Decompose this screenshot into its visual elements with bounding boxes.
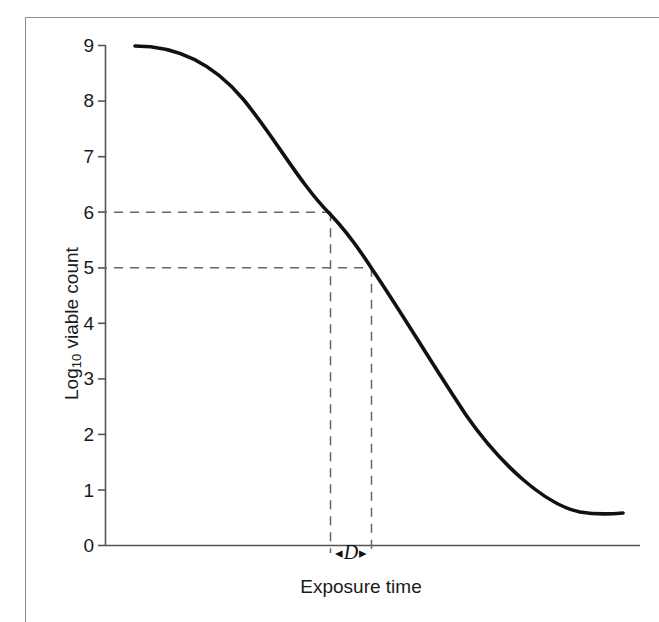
x-axis-title: Exposure time <box>105 576 617 598</box>
y-tick-label-2: 2 <box>70 425 94 444</box>
survival-curve-chart <box>0 0 659 622</box>
figure-container: 9 8 7 6 5 4 3 2 1 0 Log10 viable count ◂… <box>0 0 659 622</box>
y-tick-label-8: 8 <box>70 91 94 110</box>
y-axis-title-base: Log <box>61 368 82 400</box>
y-tick-label-9: 9 <box>70 36 94 55</box>
d-value-label: D <box>344 542 358 562</box>
y-axis-title-subscript: 10 <box>69 354 84 368</box>
y-tick-label-0: 0 <box>70 536 94 555</box>
y-tick-label-1: 1 <box>70 481 94 500</box>
arrow-left-icon: ◂ <box>335 545 343 560</box>
survival-curve <box>135 46 623 514</box>
y-axis-title: Log10 viable count <box>62 247 83 400</box>
y-tick-label-6: 6 <box>70 203 94 222</box>
y-tick-label-7: 7 <box>70 147 94 166</box>
arrow-right-icon: ▸ <box>359 545 367 560</box>
y-axis-title-rest: viable count <box>61 247 82 354</box>
d-value-annotation: ◂ D ▸ <box>320 541 382 563</box>
y-axis-ticks <box>98 46 105 546</box>
